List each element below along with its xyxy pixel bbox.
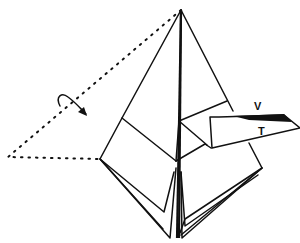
label-v: V <box>254 100 262 112</box>
bottom-legs <box>100 159 262 238</box>
label-t: T <box>258 125 265 137</box>
dotted-fold-guide <box>8 10 181 159</box>
flap: V T <box>210 100 300 148</box>
curved-arrow-icon <box>58 95 87 116</box>
origami-diagram: V T <box>0 0 300 243</box>
